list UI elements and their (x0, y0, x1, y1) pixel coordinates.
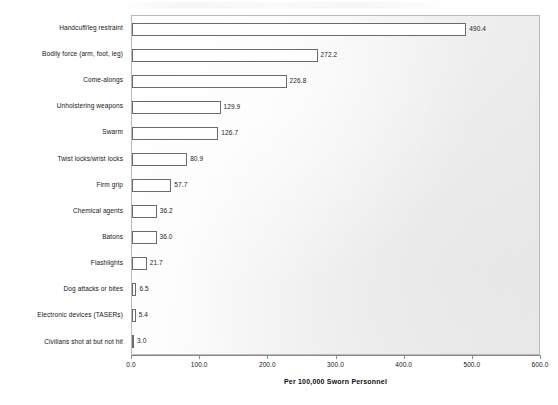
bar-value-label: 272.2 (321, 52, 338, 59)
bar-row: 226.8 (132, 75, 539, 88)
bar-value-label: 6.5 (139, 286, 148, 293)
category-label: Flashlights (0, 257, 127, 270)
bar-value-label: 226.8 (290, 78, 307, 85)
bar (132, 283, 136, 296)
x-axis-tick (267, 355, 268, 359)
bar-value-label: 129.9 (224, 104, 241, 111)
bar-row: 36.2 (132, 205, 539, 218)
bar-row: 80.9 (132, 153, 539, 166)
bar (132, 101, 221, 114)
x-axis-tick-label: 100.0 (191, 362, 208, 369)
x-axis-tick-label: 200.0 (259, 362, 276, 369)
x-axis-tick (540, 355, 541, 359)
bar-value-label: 490.4 (469, 26, 486, 33)
bar-row: 490.4 (132, 23, 539, 36)
category-label: Dog attacks or bites (0, 283, 127, 296)
plot-area: 490.4 272.2 226.8 129.9 126.7 80.9 (131, 15, 540, 355)
bar-row: 126.7 (132, 127, 539, 140)
bar-row: 5.4 (132, 309, 539, 322)
x-axis-tick-label: 0.0 (126, 362, 135, 369)
bar (132, 309, 136, 322)
bar-row: 57.7 (132, 179, 539, 192)
bar (132, 75, 287, 88)
category-axis-labels: Handcuff/leg restraint Bodily force (arm… (0, 15, 127, 355)
bar (132, 49, 318, 62)
bar (132, 127, 218, 140)
category-label: Firm grip (0, 178, 127, 191)
bar-value-label: 3.0 (137, 338, 146, 345)
bar (132, 153, 187, 166)
x-axis-tick (472, 355, 473, 359)
category-label: Bodily force (arm, foot, leg) (0, 48, 127, 61)
x-axis-tick-label: 400.0 (395, 362, 412, 369)
x-axis-ticks (131, 355, 540, 359)
bar (132, 335, 134, 348)
x-axis-tick (199, 355, 200, 359)
bar (132, 257, 147, 270)
bar-value-label: 36.2 (160, 208, 173, 215)
bar (132, 23, 466, 36)
category-label: Civilians shot at but not hit (0, 335, 127, 348)
x-axis-tick-label: 300.0 (327, 362, 344, 369)
bar-row: 36.0 (132, 231, 539, 244)
bar-value-label: 5.4 (139, 312, 148, 319)
category-label: Twist locks/wrist locks (0, 152, 127, 165)
category-label: Chemical agents (0, 205, 127, 218)
x-axis-tick (131, 355, 132, 359)
x-axis-tick-labels: 0.0100.0200.0300.0400.0500.0600.0 (0, 362, 558, 374)
bar-row: 272.2 (132, 49, 539, 62)
bar (132, 179, 171, 192)
bar (132, 205, 157, 218)
x-axis-title: Per 100,000 Sworn Personnel (131, 378, 540, 385)
category-label: Come-alongs (0, 74, 127, 87)
bar-value-label: 57.7 (174, 182, 187, 189)
bar-value-label: 36.0 (160, 234, 173, 241)
x-axis-tick-label: 500.0 (463, 362, 480, 369)
bar-value-label: 21.7 (150, 260, 163, 267)
category-label: Unholstering weapons (0, 100, 127, 113)
bar-value-label: 126.7 (221, 130, 238, 137)
x-axis-tick-label: 600.0 (532, 362, 549, 369)
x-axis-tick (336, 355, 337, 359)
x-axis-tick (404, 355, 405, 359)
bar-row: 6.5 (132, 283, 539, 296)
category-label: Swarm (0, 126, 127, 139)
bar-row: 129.9 (132, 101, 539, 114)
bar-row: 21.7 (132, 257, 539, 270)
bar-row: 3.0 (132, 335, 539, 348)
category-label: Batons (0, 231, 127, 244)
scan-artifact-band (120, 2, 450, 8)
bar (132, 231, 157, 244)
bar-rows: 490.4 272.2 226.8 129.9 126.7 80.9 (132, 16, 539, 354)
bar-chart: Handcuff/leg restraint Bodily force (arm… (0, 0, 558, 405)
category-label: Electronic devices (TASERs) (0, 309, 127, 322)
category-label: Handcuff/leg restraint (0, 22, 127, 35)
bar-value-label: 80.9 (190, 156, 203, 163)
